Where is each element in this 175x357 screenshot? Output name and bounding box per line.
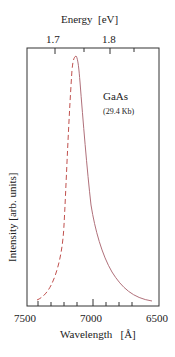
energy-title-text: Energy [61, 13, 93, 25]
chart-plot-area [0, 0, 175, 357]
dashed-spectrum-line [37, 56, 76, 300]
wavelength-tick-6500: 6500 [146, 312, 168, 324]
wavelength-title-text: Wavelength [60, 328, 112, 340]
energy-tick-1.8: 1.8 [102, 33, 116, 45]
bottom-axis-ticks [38, 299, 132, 306]
sample-label: GaAs [103, 90, 128, 102]
intensity-axis-title: Intensity [arb. units] [6, 172, 18, 262]
wavelength-unit-text: [Å] [121, 328, 136, 340]
axes-frame [27, 48, 159, 306]
sample-thickness-label: (29.4 Kb) [103, 107, 134, 116]
wavelength-tick-7000: 7000 [80, 312, 102, 324]
wavelength-tick-7500: 7500 [14, 312, 36, 324]
top-axis-ticks [55, 48, 134, 54]
wavelength-axis-title: Wavelength [Å] [60, 328, 136, 340]
energy-tick-1.7: 1.7 [46, 33, 60, 45]
energy-unit-text: [eV] [98, 13, 118, 25]
energy-axis-title: Energy [eV] [61, 13, 118, 25]
